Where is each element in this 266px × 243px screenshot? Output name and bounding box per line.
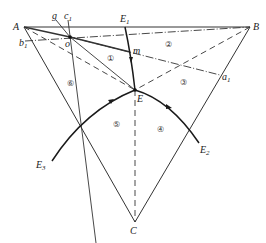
region-1: ① [107, 54, 114, 63]
label-o: o [65, 38, 70, 49]
label-m: m [133, 45, 140, 56]
region-2: ② [165, 40, 172, 49]
triangle-outline [24, 27, 250, 222]
label-E2: E2 [199, 144, 210, 157]
label-C: C [130, 225, 137, 236]
label-a1: a1 [222, 71, 231, 84]
region-3: ③ [180, 78, 187, 87]
diagram-canvas: A B C E E1 E2 E3 o m g c1 b1 a1 ① ② ③ ④ … [0, 0, 266, 243]
region-4: ④ [157, 125, 164, 134]
label-c1: c1 [64, 10, 72, 23]
ternary-diagram: A B C E E1 E2 E3 o m g c1 b1 a1 ① ② ③ ④ … [0, 0, 266, 243]
label-B: B [253, 21, 259, 32]
boundary-curves [52, 27, 199, 161]
dashed-joins [24, 27, 250, 222]
label-E: E [136, 93, 143, 104]
region-5: ⑤ [113, 120, 120, 129]
region-6: ⑥ [67, 79, 74, 88]
point-E [133, 88, 137, 92]
label-E3: E3 [35, 159, 46, 172]
label-A: A [12, 21, 20, 32]
label-b1: b1 [19, 37, 28, 50]
label-E1: E1 [119, 13, 130, 26]
label-g: g [52, 10, 57, 21]
construction-lines [24, 20, 135, 243]
